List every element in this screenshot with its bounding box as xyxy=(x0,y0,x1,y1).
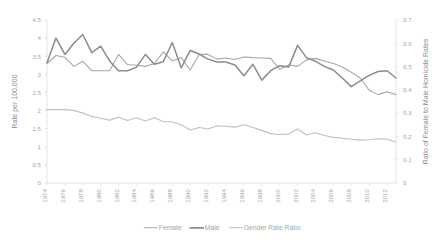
chart-legend: FemaleMaleGender Rate Ratio xyxy=(144,224,300,231)
x-tick-label: 2000 xyxy=(274,188,281,202)
chart-container: 00.511.522.533.544.5 00.10.20.30.40.50.6… xyxy=(0,0,442,247)
x-tick-label: 1992 xyxy=(202,188,209,202)
left-tick-label: 3.5 xyxy=(32,53,41,60)
y-axis-title-text: Rate per 100,000 xyxy=(11,74,19,128)
right-tick-label: 0 xyxy=(403,179,407,186)
series-lines xyxy=(47,34,396,142)
series-line-gender-rate-ratio xyxy=(47,110,396,142)
x-tick-label: 1984 xyxy=(130,188,137,202)
right-axis-ticks: 00.10.20.30.40.50.60.7 xyxy=(403,16,412,186)
y2-axis-title-text: Ratio of Female to Male Homicide Rates xyxy=(422,38,429,164)
x-tick-label: 1982 xyxy=(113,188,120,202)
x-tick-label: 1996 xyxy=(238,188,245,202)
x-axis-ticks: 1974197619781980198219841986198819901992… xyxy=(41,188,388,202)
x-tick-label: 2004 xyxy=(309,188,316,202)
x-tick-label: 1986 xyxy=(148,188,155,202)
left-tick-label: 4 xyxy=(38,34,42,41)
x-tick-label: 1980 xyxy=(95,188,102,202)
x-tick-label: 1976 xyxy=(59,188,66,202)
x-tick-label: 1998 xyxy=(256,188,263,202)
left-axis-title: Rate per 100,000 xyxy=(11,74,19,128)
right-tick-label: 0.7 xyxy=(403,16,412,23)
x-tick-label: 2002 xyxy=(292,188,299,202)
right-tick-label: 0.4 xyxy=(403,86,412,93)
right-axis-title: Ratio of Female to Male Homicide Rates xyxy=(422,38,429,164)
left-tick-label: 2.5 xyxy=(32,89,41,96)
x-tick-label: 1988 xyxy=(166,188,173,202)
x-tick-label: 2006 xyxy=(327,188,334,202)
right-tick-label: 0.3 xyxy=(403,109,412,116)
left-tick-label: 1.5 xyxy=(32,125,41,132)
left-tick-label: 0.5 xyxy=(32,161,41,168)
x-tick-label: 2012 xyxy=(381,188,388,202)
series-line-male xyxy=(47,34,396,86)
line-chart: 00.511.522.533.544.5 00.10.20.30.40.50.6… xyxy=(0,0,442,247)
right-tick-label: 0.2 xyxy=(403,133,412,140)
x-tick-label: 1978 xyxy=(77,188,84,202)
series-line-female xyxy=(47,52,396,95)
axis-lines xyxy=(45,20,399,186)
right-tick-label: 0.6 xyxy=(403,40,412,47)
right-tick-label: 0.5 xyxy=(403,63,412,70)
left-tick-label: 0 xyxy=(38,179,42,186)
left-tick-label: 4.5 xyxy=(32,16,41,23)
x-tick-label: 1974 xyxy=(41,188,48,202)
x-tick-label: 1994 xyxy=(220,188,227,202)
left-axis-ticks: 00.511.522.533.544.5 xyxy=(32,16,41,186)
right-tick-label: 0.1 xyxy=(403,156,412,163)
x-tick-label: 2010 xyxy=(363,188,370,202)
left-tick-label: 2 xyxy=(38,107,42,114)
legend-label-female: Female xyxy=(159,224,182,231)
legend-label-gender-rate-ratio: Gender Rate Ratio xyxy=(244,224,301,231)
x-tick-label: 1990 xyxy=(184,188,191,202)
x-tick-label: 2008 xyxy=(345,188,352,202)
legend-label-male: Male xyxy=(205,224,220,231)
left-tick-label: 3 xyxy=(38,71,42,78)
left-tick-label: 1 xyxy=(38,143,42,150)
